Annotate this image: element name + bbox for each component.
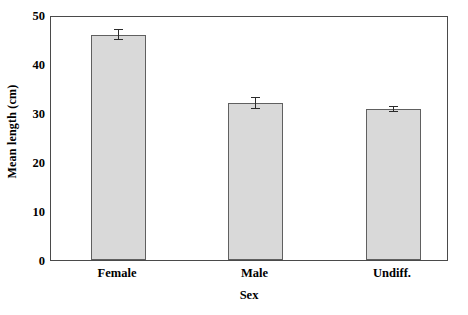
y-axis-tick-label: 50 bbox=[22, 10, 45, 23]
x-axis-tick-labels: FemaleMaleUndiff. bbox=[50, 266, 448, 286]
y-axis-tick-label: 30 bbox=[22, 108, 45, 121]
bar bbox=[228, 103, 283, 260]
y-axis-title-text: Mean length (cm) bbox=[6, 84, 21, 178]
bar bbox=[91, 35, 146, 260]
error-bar-cap-top bbox=[389, 106, 398, 107]
x-axis-tick-label: Female bbox=[98, 266, 137, 281]
bar-chart-figure: Mean length (cm) 01020304050 FemaleMaleU… bbox=[0, 0, 468, 315]
x-axis-tick-label: Male bbox=[241, 266, 268, 281]
error-bar-cap-top bbox=[114, 29, 123, 30]
y-axis-tick-label: 20 bbox=[22, 157, 45, 170]
y-axis-tick-label: 0 bbox=[22, 255, 45, 268]
x-axis-title: Sex bbox=[50, 288, 448, 303]
bar bbox=[366, 109, 421, 260]
plot-area bbox=[50, 16, 448, 261]
error-bar-cap-top bbox=[251, 97, 260, 98]
x-axis-tick-label: Undiff. bbox=[373, 266, 411, 281]
y-axis-tick-label: 10 bbox=[22, 206, 45, 219]
y-axis-tick-labels: 01020304050 bbox=[22, 0, 45, 315]
y-axis-tick-label: 40 bbox=[22, 59, 45, 72]
